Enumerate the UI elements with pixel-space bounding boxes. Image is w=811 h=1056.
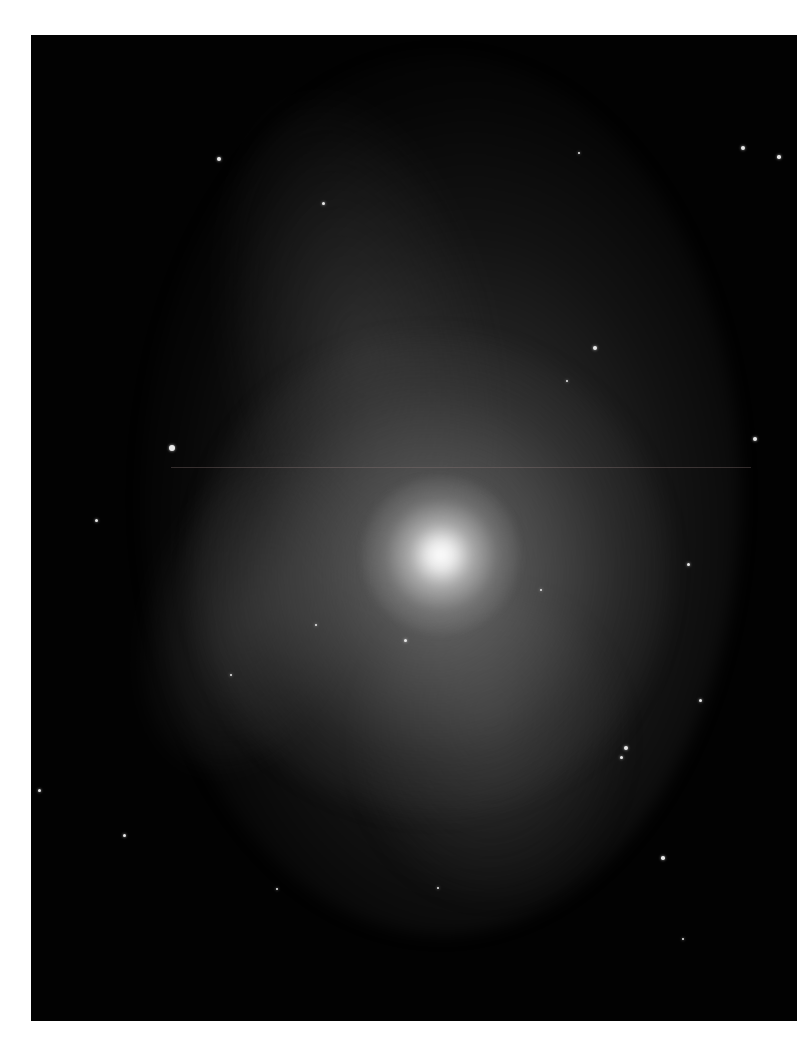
star: [169, 445, 175, 451]
star: [123, 834, 126, 837]
star: [682, 938, 684, 940]
star: [741, 146, 745, 150]
star: [687, 563, 690, 566]
star: [699, 699, 702, 702]
star: [777, 155, 781, 159]
star: [661, 856, 665, 860]
star: [578, 152, 580, 154]
spiral-arm-left: [102, 430, 399, 799]
galaxy-core: [361, 475, 521, 635]
galaxy-disk: [191, 335, 671, 815]
star: [230, 674, 232, 676]
star: [404, 639, 407, 642]
star: [593, 346, 597, 350]
star: [540, 589, 542, 591]
star: [315, 624, 317, 626]
star: [38, 789, 41, 792]
star: [566, 380, 568, 382]
spiral-arm-lower: [361, 595, 621, 895]
star: [322, 202, 325, 205]
star: [624, 746, 628, 750]
galaxy-halo: [141, 55, 741, 935]
star: [217, 157, 221, 161]
star: [753, 437, 757, 441]
scan-artifact-line: [171, 467, 751, 468]
star: [276, 888, 278, 890]
star: [95, 519, 98, 522]
spiral-arm-upper: [180, 74, 542, 637]
star: [437, 887, 439, 889]
galaxy-photo: [31, 35, 797, 1021]
star: [620, 756, 623, 759]
